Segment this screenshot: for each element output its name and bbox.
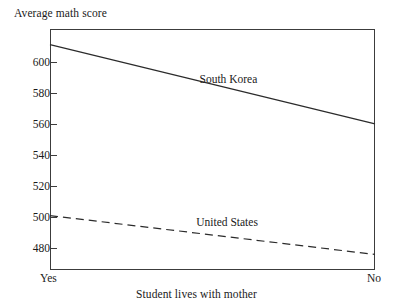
x-tick-label-no: No (367, 272, 381, 284)
data-series-layer (0, 0, 393, 308)
series-label-united-states: United States (196, 216, 258, 228)
chart-container: Average math score 600580560540520500480… (0, 0, 393, 308)
x-axis-title: Student lives with mother (0, 288, 393, 300)
x-tick-label-yes: Yes (40, 272, 57, 284)
series-label-south-korea: South Korea (200, 73, 258, 85)
